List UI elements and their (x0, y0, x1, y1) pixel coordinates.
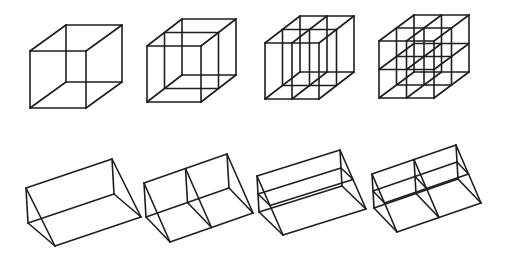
cube-divided-width-depth (265, 16, 354, 99)
edge-line (112, 159, 114, 194)
edge-line (227, 154, 253, 213)
edge-line (385, 174, 469, 203)
edge-line (26, 159, 112, 188)
edge-line (416, 194, 439, 218)
wireframe-figure (0, 0, 506, 258)
edge-line (114, 194, 141, 217)
edge-line (55, 217, 141, 246)
cube-subdivision-row (30, 15, 469, 108)
edge-line (112, 159, 141, 217)
prism-divided-height (257, 150, 366, 235)
cube-undivided (30, 25, 122, 108)
edge-line (86, 82, 122, 108)
cube-divided-all-axes (379, 15, 469, 98)
edge-line (458, 179, 481, 203)
edge-line (146, 217, 170, 242)
edge-line (30, 25, 66, 51)
edge-line (374, 208, 397, 232)
edge-line (28, 194, 114, 223)
prism-undivided (26, 159, 141, 246)
wireframe-canvas (0, 0, 506, 258)
edge-line (283, 209, 366, 235)
edge-line (86, 25, 122, 51)
prism-divided-length (144, 154, 253, 242)
edge-line (229, 188, 253, 213)
edge-line (30, 82, 66, 108)
edge-line (188, 203, 212, 228)
edge-line (397, 203, 481, 232)
edge-line (342, 186, 366, 209)
edge-line (26, 188, 55, 246)
cube-divided-depth (147, 19, 236, 102)
edge-line (26, 188, 28, 223)
edge-line (259, 212, 283, 235)
prism-divided-length-height (372, 145, 481, 232)
edge-line (28, 223, 55, 246)
edge-line (170, 213, 253, 242)
prism-subdivision-row (26, 145, 481, 246)
edge-line (270, 180, 353, 206)
